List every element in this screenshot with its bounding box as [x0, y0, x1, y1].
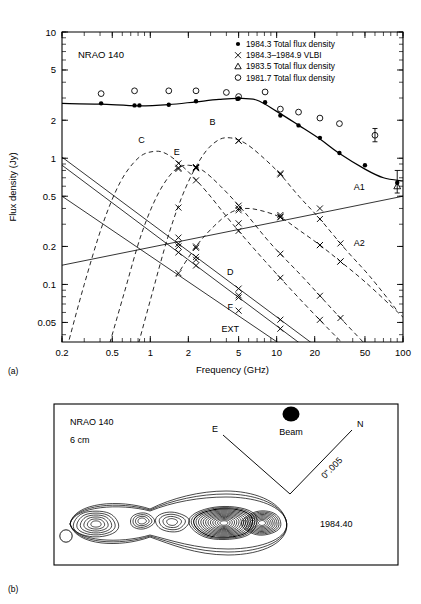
panel-b-wavelength: 6 cm	[70, 435, 90, 445]
x-tick-label: 50	[360, 347, 371, 358]
legend-marker-filled-circle	[236, 42, 240, 46]
contour-line	[87, 519, 104, 529]
marker-open-circle	[262, 89, 268, 95]
contour-line	[163, 516, 182, 527]
panel-b: NRAO 1406 cm1984.40BeamEN0ʺ.005	[54, 404, 398, 565]
vlbi-marker	[317, 242, 323, 248]
figure-svg: 0.20.51251020501000.050.10.20.512510Freq…	[0, 0, 421, 604]
vlbi-marker	[175, 160, 181, 166]
scale-bar-label: 0ʺ.005	[319, 455, 344, 480]
legend-entry-label: 1984.3 Total flux density	[246, 39, 336, 49]
x-tick-label: 2	[186, 347, 191, 358]
component-label-d: D	[227, 267, 234, 277]
marker-filled-circle	[318, 136, 322, 140]
vlbi-marker	[337, 240, 343, 246]
vlbi-marker	[337, 258, 343, 264]
marker-filled-circle	[137, 103, 141, 107]
marker-open-circle	[98, 91, 104, 97]
marker-open-circle	[166, 88, 172, 94]
y-tick-label: 0.5	[43, 191, 56, 202]
marker-filled-circle	[363, 163, 367, 167]
vlbi-marker	[317, 216, 323, 222]
vlbi-marker	[193, 254, 199, 260]
contour-line	[131, 513, 155, 529]
component-label-b: B	[209, 117, 215, 127]
vlbi-marker	[277, 170, 283, 176]
x-tick-label: 20	[309, 347, 320, 358]
marker-filled-circle	[167, 103, 171, 107]
y-axis-title: Flux density (Jy)	[7, 152, 18, 221]
panel-a: 0.20.51251020501000.050.10.20.512510Freq…	[7, 27, 411, 382]
contour-line	[213, 517, 235, 528]
vlbi-marker	[193, 245, 199, 251]
component-labels: CEBA1A2DFEXT	[138, 117, 365, 334]
component-label-e: E	[174, 147, 180, 157]
component-label-a2: A2	[354, 238, 365, 248]
vlbi-marker	[277, 171, 283, 177]
x-tick-label: 5	[236, 347, 241, 358]
vlbi-marker	[277, 251, 283, 257]
vlbi-marker	[277, 275, 283, 281]
vlbi-marker	[317, 293, 323, 299]
marker-open-circle	[317, 115, 323, 121]
legend-entry-label: 1981.7 Total flux density	[246, 73, 336, 83]
beam-ellipse	[283, 407, 300, 422]
y-tick-label: 10	[45, 27, 56, 38]
component-label-f: F	[228, 302, 234, 312]
vlbi-marker	[317, 205, 323, 211]
x-axis-ticks: 0.20.5125102050100	[55, 32, 411, 358]
component-label-a1: A1	[354, 182, 365, 192]
vlbi-marker	[337, 315, 343, 321]
component-label-ext: EXT	[222, 324, 240, 334]
legend-marker-cross	[235, 52, 241, 58]
vlbi-marker	[277, 317, 283, 323]
series-curve-c	[67, 151, 359, 358]
compass-east-label: E	[212, 424, 218, 434]
x-axis-title: Frequency (GHz)	[196, 364, 269, 375]
marker-filled-circle	[263, 100, 267, 104]
vlbi-marker	[193, 243, 199, 249]
marker-open-circle	[296, 109, 302, 115]
marker-open-circle	[277, 106, 283, 112]
vlbi-marker	[175, 205, 181, 211]
marker-filled-circle	[99, 101, 103, 105]
series-points-open-circle	[98, 88, 378, 138]
series-curve-d	[62, 157, 315, 345]
legend-entry-label: 1983.5 Total flux density	[246, 61, 336, 71]
marker-open-circle	[223, 90, 229, 96]
vlbi-marker	[236, 286, 242, 292]
x-tick-label: 0.2	[55, 347, 68, 358]
legend-marker-triangle	[235, 63, 241, 69]
compass-north-label: N	[357, 419, 364, 429]
data-curves	[62, 88, 403, 382]
contour-line	[80, 515, 111, 533]
y-tick-label: 0.1	[43, 279, 56, 290]
marker-filled-circle	[278, 113, 282, 117]
marker-filled-circle	[194, 99, 198, 103]
axis-minor-ticks	[62, 32, 403, 342]
contour-line	[77, 513, 115, 535]
vlbi-marker	[236, 220, 242, 226]
contour-map	[70, 491, 287, 555]
series-curve-ext	[62, 196, 282, 345]
y-tick-label: 0.2	[43, 241, 56, 252]
marker-open-circle	[337, 121, 343, 127]
contour-line	[258, 521, 265, 526]
vlbi-marker	[193, 164, 199, 170]
vlbi-marker	[193, 263, 199, 269]
marker-open-circle	[193, 88, 199, 94]
marker-filled-circle	[337, 151, 341, 155]
beam-label: Beam	[279, 427, 303, 437]
vlbi-marker	[175, 235, 181, 241]
vlbi-marker	[236, 228, 242, 234]
panel-b-source-name: NRAO 140	[70, 417, 114, 427]
panel-b-epoch: 1984.40	[320, 519, 353, 529]
vlbi-marker	[175, 249, 181, 255]
vlbi-marker	[193, 177, 199, 183]
marker-filled-circle	[132, 103, 136, 107]
marker-open-circle	[132, 88, 138, 94]
vlbi-marker	[236, 308, 242, 314]
panel-a-source-name: NRAO 140	[78, 49, 124, 60]
contour-line	[155, 512, 189, 532]
contour-line	[167, 519, 178, 526]
